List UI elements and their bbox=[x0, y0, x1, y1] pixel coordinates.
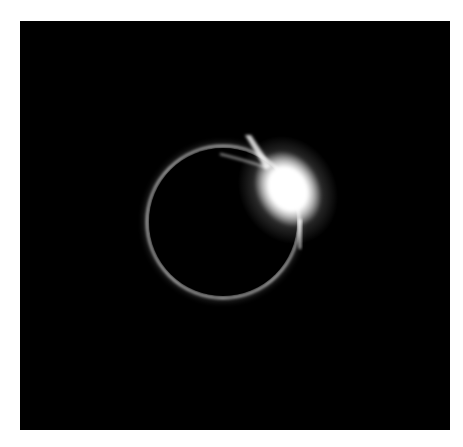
eclipse-photo: Total solar eclipse diamond ring effect bbox=[20, 21, 450, 430]
eclipse-illustration bbox=[20, 21, 450, 430]
